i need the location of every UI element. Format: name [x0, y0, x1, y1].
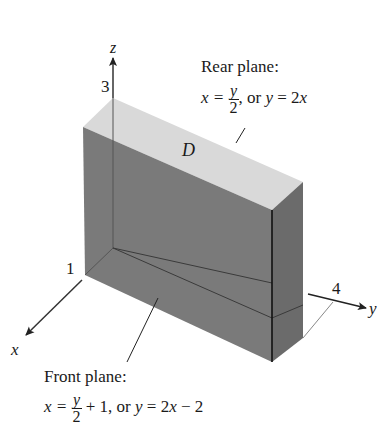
rear-plane-frac-num: y: [229, 83, 239, 99]
solid-diagram: [0, 0, 383, 426]
x-axis: [26, 280, 82, 335]
rear-plane-frac-den: 2: [229, 99, 239, 116]
y-axis-floor: [303, 302, 333, 338]
y-tick-label: 4: [332, 280, 341, 297]
front-plane-title: Front plane:: [44, 368, 127, 385]
region-label: D: [182, 141, 195, 159]
rear-plane-alt-rest: = 2: [273, 88, 300, 107]
y-axis-label: y: [369, 300, 377, 317]
rear-plane-lhs: x =: [201, 88, 224, 107]
front-plane-leader: [127, 298, 158, 362]
rear-plane-rest: , or: [239, 88, 266, 107]
front-plane-fraction: y 2: [72, 392, 82, 425]
front-plane-alt-tail: − 2: [177, 397, 204, 416]
rear-plane-alt-y: y: [265, 88, 273, 107]
z-axis-label: z: [110, 40, 116, 56]
rear-plane-leader: [236, 128, 245, 143]
z-tick-label: 3: [101, 78, 110, 95]
front-plane-alt-x: x: [169, 397, 177, 416]
rear-plane-alt-x: x: [300, 88, 308, 107]
front-plane-alt-y: y: [135, 397, 143, 416]
front-plane-rest: + 1, or: [82, 397, 136, 416]
front-plane-alt-rest: = 2: [143, 397, 170, 416]
front-plane-equation: x = y 2 + 1, or y = 2x − 2: [44, 392, 203, 425]
rear-plane-fraction: y 2: [229, 83, 239, 116]
x-tick-label: 1: [66, 260, 75, 277]
front-plane-frac-den: 2: [72, 408, 82, 425]
side-face: [272, 182, 303, 362]
front-plane-frac-num: y: [72, 392, 82, 408]
x-axis-label: x: [11, 341, 19, 358]
rear-plane-title: Rear plane:: [201, 58, 279, 75]
rear-plane-equation: x = y 2 , or y = 2x: [201, 83, 307, 116]
front-plane-lhs: x =: [44, 397, 67, 416]
